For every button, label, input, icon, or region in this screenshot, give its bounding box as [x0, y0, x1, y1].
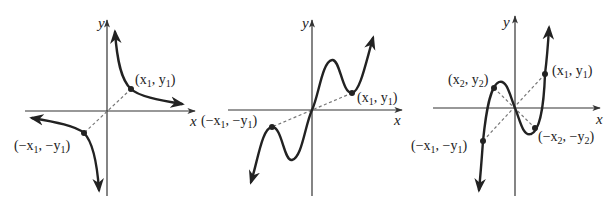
point-neg-x1-neg-y1	[81, 130, 87, 136]
label-neg-x2-neg-y2: (−x2, −y2)	[538, 129, 594, 146]
y-axis-label: y	[300, 15, 309, 31]
label-neg-x1-neg-y1: (−x1, −y1)	[201, 113, 257, 130]
label-x1-y1: (x1, y1)	[552, 63, 593, 80]
panel-1: y x (x1, y1) (−x1, −y1)	[14, 15, 197, 196]
x-axis-label: x	[393, 112, 401, 128]
point-x1-y1	[349, 90, 355, 96]
point-neg-x1-neg-y1	[269, 124, 275, 130]
panel-3: y x (x1, y1) (x2, y2) (−x2, −y2) (−x1, −…	[411, 14, 603, 196]
label-x1-y1: (x1, y1)	[135, 72, 176, 89]
curve-branch-upper	[115, 32, 182, 104]
label-x2-y2: (x2, y2)	[448, 72, 489, 89]
origin-symmetry-figure: y x (x1, y1) (−x1, −y1) y x (x1, y1) (−x…	[0, 0, 615, 205]
label-neg-x1-neg-y1: (−x1, −y1)	[14, 138, 70, 155]
point-neg-x1-neg-y1	[480, 138, 486, 144]
label-x1-y1: (x1, y1)	[357, 90, 398, 107]
y-axis-label: y	[96, 15, 105, 31]
x-axis-label: x	[189, 113, 197, 129]
label-neg-x1-neg-y1: (−x1, −y1)	[411, 138, 467, 155]
cubic-curve	[479, 28, 549, 190]
y-axis-label: y	[501, 14, 510, 30]
point-x2-y2	[491, 85, 497, 91]
point-x1-y1	[542, 71, 548, 77]
x-axis-label: x	[595, 111, 603, 127]
point-x1-y1	[128, 86, 134, 92]
panel-2: y x (x1, y1) (−x1, −y1)	[201, 15, 402, 196]
